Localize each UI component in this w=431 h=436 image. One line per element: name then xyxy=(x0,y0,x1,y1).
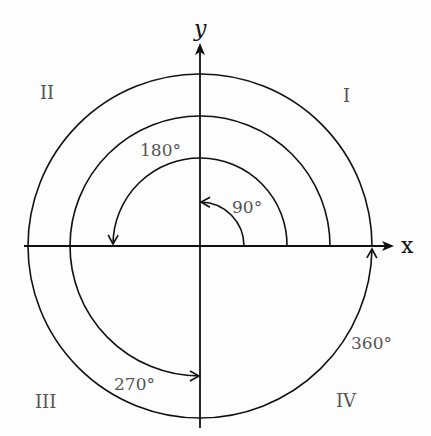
quadrant-III-label: III xyxy=(35,391,56,412)
y-axis-label: y xyxy=(193,16,207,41)
angle-diagram: y x II I III IV 90° 180° 270° 360° xyxy=(0,0,431,436)
x-axis-label: x xyxy=(401,233,414,258)
quadrant-II-label: II xyxy=(40,82,54,103)
quadrant-I-label: I xyxy=(343,85,350,106)
angle-label-90: 90° xyxy=(232,197,262,217)
quadrant-IV-label: IV xyxy=(336,390,357,411)
angle-label-360: 360° xyxy=(351,333,392,353)
angle-label-180: 180° xyxy=(140,140,181,160)
angle-label-270: 270° xyxy=(114,374,155,394)
